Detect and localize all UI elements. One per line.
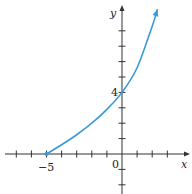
chart: y x 4 0 −5 bbox=[0, 0, 192, 194]
y-axis-arrow-icon bbox=[120, 5, 125, 11]
axes bbox=[5, 5, 190, 194]
curve-arrow-icon bbox=[153, 9, 159, 17]
x-tick-label-neg5: −5 bbox=[38, 161, 54, 174]
y-tick-label-4: 4 bbox=[111, 86, 118, 99]
x-axis-arrow-icon bbox=[184, 152, 190, 157]
start-point-marker bbox=[45, 152, 49, 156]
x-axis-label: x bbox=[181, 158, 188, 171]
y-axis-label: y bbox=[109, 7, 117, 20]
origin-label: 0 bbox=[112, 158, 119, 171]
data-curve bbox=[47, 9, 158, 154]
